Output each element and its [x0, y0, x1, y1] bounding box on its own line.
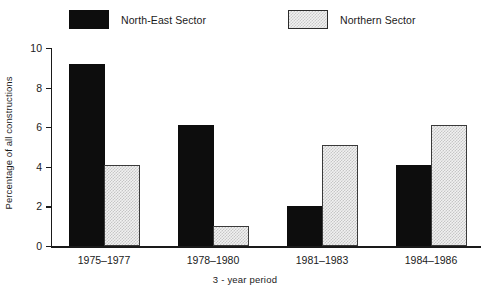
bar-northern-sector-1981-1983[interactable] [322, 145, 358, 246]
bar-group-1981-1983: 1981–1983 [287, 44, 358, 246]
y-tick-label-4: 4 [36, 161, 42, 173]
bar-north-east-sector-1978-1980[interactable] [178, 125, 214, 246]
bar-group-1978-1980: 1978–1980 [178, 44, 249, 246]
bar-group-1984-1986: 1984–1986 [396, 44, 467, 246]
bar-group-1975-1977: 1975–1977 [69, 44, 140, 246]
chart-legend: North-East Sector Northern Sector [0, 10, 491, 38]
bar-northern-sector-1975-1977[interactable] [104, 165, 140, 246]
legend-item-northern-sector: Northern Sector [288, 10, 416, 29]
legend-swatch-solid-icon [69, 10, 109, 29]
bar-north-east-sector-1981-1983[interactable] [287, 206, 323, 246]
y-tick-label-0: 0 [36, 240, 42, 252]
bar-north-east-sector-1975-1977[interactable] [69, 64, 105, 246]
legend-swatch-hatch-icon [288, 10, 328, 29]
y-tick-label-8: 8 [36, 82, 42, 94]
legend-item-north-east-sector: North-East Sector [69, 10, 206, 29]
bar-north-east-sector-1984-1986[interactable] [396, 165, 432, 246]
x-tick-label-1981-1983: 1981–1983 [296, 254, 349, 266]
y-axis-title: Percentage of all constructions [3, 76, 14, 209]
legend-label-northern-sector: Northern Sector [340, 14, 416, 26]
legend-label-north-east-sector: North-East Sector [121, 14, 206, 26]
bar-northern-sector-1978-1980[interactable] [213, 226, 249, 246]
bar-northern-sector-1984-1986[interactable] [431, 125, 467, 246]
x-axis-title: 3 - year period [213, 274, 277, 285]
y-tick-label-10: 10 [30, 42, 42, 54]
y-tick-label-6: 6 [36, 121, 42, 133]
bar-series-container: 1975–1977 1978–1980 1981–1983 1984–1986 [51, 44, 481, 248]
plot-area: Percentage of all constructions 0 2 4 6 … [51, 44, 481, 250]
x-tick-label-1975-1977: 1975–1977 [78, 254, 131, 266]
x-tick-label-1978-1980: 1978–1980 [187, 254, 240, 266]
bar-chart-figure: North-East Sector Northern Sector Percen… [0, 0, 491, 297]
x-tick-label-1984-1986: 1984–1986 [405, 254, 458, 266]
y-tick-label-2: 2 [36, 200, 42, 212]
